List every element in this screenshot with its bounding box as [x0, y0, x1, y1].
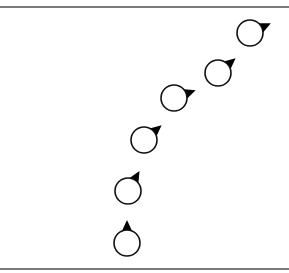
circle-pointer-marker — [131, 121, 165, 153]
marker-diagram — [0, 0, 289, 273]
circle-pointer-marker — [237, 18, 273, 46]
circle-icon — [131, 127, 157, 153]
circle-icon — [237, 20, 263, 46]
circle-pointer-marker — [115, 168, 145, 204]
circle-icon — [115, 178, 141, 204]
circle-icon — [161, 85, 187, 111]
circle-pointer-marker — [161, 84, 198, 111]
circle-pointer-marker — [114, 220, 140, 256]
circle-pointer-marker — [205, 54, 239, 86]
circle-icon — [114, 230, 140, 256]
circle-icon — [205, 60, 231, 86]
